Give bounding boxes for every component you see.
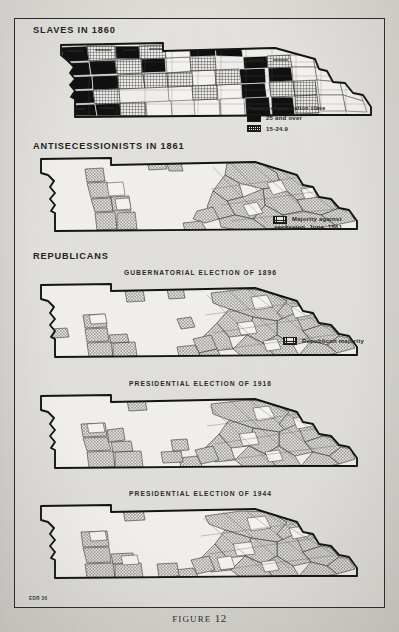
map-antisecessionists-1861 bbox=[15, 153, 386, 253]
legend-label-line1: Majority against bbox=[292, 215, 342, 223]
legend-swatch-stipple bbox=[273, 216, 287, 224]
legend-title: Percent of population slave bbox=[247, 105, 325, 111]
figure-caption: FIGURE 12 bbox=[0, 612, 399, 624]
source-code-label: EDR 36 bbox=[29, 596, 48, 601]
map-republicans-1944 bbox=[15, 500, 386, 604]
map-slaves-1860 bbox=[15, 37, 386, 149]
legend-label: 25 and over bbox=[266, 115, 302, 121]
tennessee-map-republicans-1944 bbox=[15, 500, 386, 604]
legend-antisecessionists-1861: Majority against secession, June, 1861 bbox=[273, 215, 342, 232]
section-subtitle-1896: GUBERNATORIAL ELECTION OF 1896 bbox=[15, 269, 386, 276]
section-header-republicans: REPUBLICANS bbox=[33, 251, 109, 261]
legend-item: 25 and over bbox=[247, 114, 325, 122]
legend-item: Republican majority bbox=[283, 337, 364, 345]
tennessee-map-slaves-1860 bbox=[15, 37, 386, 149]
legend-swatch-solid-black bbox=[247, 114, 261, 122]
legend-label-line2: secession, June, 1861 bbox=[274, 223, 342, 231]
section-header-slaves-1860: SLAVES IN 1860 bbox=[33, 25, 116, 35]
figure-caption-number: 12 bbox=[215, 612, 227, 624]
legend-item: 15-24.9 bbox=[247, 125, 325, 133]
legend-label: 15-24.9 bbox=[266, 126, 288, 132]
legend-label: Republican majority bbox=[302, 338, 364, 344]
map-republicans-1896 bbox=[15, 279, 386, 379]
map-republicans-1916 bbox=[15, 390, 386, 490]
legend-republicans-1896: Republican majority bbox=[283, 337, 364, 345]
section-subtitle-1916: PRESIDENTIAL ELECTION OF 1916 bbox=[15, 380, 386, 387]
figure-frame: SLAVES IN 1860 bbox=[14, 18, 385, 608]
tennessee-map-republicans-1896 bbox=[15, 279, 386, 379]
section-header-antisecessionists-1861: ANTISECESSIONISTS IN 1861 bbox=[33, 141, 184, 151]
legend-swatch-stipple bbox=[283, 337, 297, 345]
legend-slaves-1860: Percent of population slave 25 and over … bbox=[247, 105, 325, 132]
legend-swatch-crosshatch bbox=[247, 125, 261, 133]
section-subtitle-1944: PRESIDENTIAL ELECTION OF 1944 bbox=[15, 490, 386, 497]
figure-caption-prefix: FIGURE bbox=[172, 614, 211, 624]
tennessee-map-republicans-1916 bbox=[15, 390, 386, 490]
tennessee-map-antisecessionists-1861 bbox=[15, 153, 386, 253]
